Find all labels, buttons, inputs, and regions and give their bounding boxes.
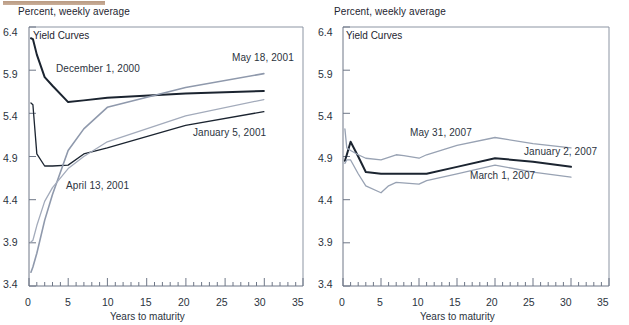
curve-label-january-2-2007: January 2, 2007 [524,146,597,157]
curve-label-december-1-2000: December 1, 2000 [56,63,140,74]
ytick-marks-left [29,27,36,286]
xtick-marks-right [343,278,609,286]
curve-label-april-13-2001: April 13, 2001 [66,180,129,191]
curve-label-march-1-2007: March 1, 2007 [470,170,535,181]
series-line [345,160,571,193]
series-line [31,74,264,273]
series-line [31,100,264,242]
plot-area-left [0,0,318,325]
curve-label-may-18-2001: May 18, 2001 [232,52,294,63]
curve-label-january-5-2001: January 5, 2001 [193,127,266,138]
curve-label-may-31-2007: May 31, 2007 [410,127,472,138]
plot-area-right [318,0,629,325]
xtick-marks-left [29,278,303,286]
chart-panel-right: Percent, weekly average Yield Curves 3.4… [318,0,629,325]
chart-panel-left: Percent, weekly average Yield Curves 3.4… [0,0,318,325]
curves-right [345,129,571,193]
